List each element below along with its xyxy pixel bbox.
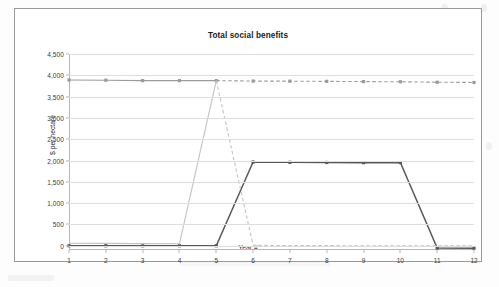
y-axis-tick-label: 1,500 [47, 178, 64, 185]
x-axis-tick-label: 3 [141, 257, 145, 264]
y-axis-tick-mark [66, 160, 69, 161]
y-axis-tick-mark [66, 117, 69, 118]
y-axis-tick-label: 4,500 [47, 51, 64, 58]
y-axis-tick-mark [66, 139, 69, 140]
gridline [69, 75, 474, 76]
gridline [69, 203, 474, 204]
x-axis-tick-label: 11 [434, 257, 441, 264]
y-axis-tick-label: 1,000 [47, 200, 64, 207]
scan-artifact [486, 142, 492, 150]
x-axis-tick-label: 8 [325, 257, 329, 264]
y-axis-tick-label: 500 [53, 221, 64, 228]
series-line-stepped-benefits [69, 162, 474, 248]
y-axis-tick-label: 3,500 [47, 93, 64, 100]
data-point-marker [288, 80, 291, 83]
x-axis-tick-label: 9 [362, 257, 366, 264]
scanned-page: Total social benefits $ per hectare Year… [0, 0, 499, 287]
x-axis-tick-mark [400, 250, 401, 253]
data-series-layer [69, 54, 474, 250]
data-point-marker [472, 81, 475, 84]
y-axis-tick-label: 0 [60, 242, 64, 249]
x-axis-tick-mark [474, 250, 475, 253]
series-line-declining-benefits [69, 81, 216, 244]
data-point-marker [399, 80, 402, 83]
x-axis-tick-mark [216, 250, 217, 253]
gridline [69, 161, 474, 162]
y-axis-tick-mark [66, 224, 69, 225]
x-axis-tick-label: 1 [67, 257, 71, 264]
y-axis-tick-mark [66, 96, 69, 97]
gridline [69, 246, 474, 247]
x-axis-tick-label: 12 [470, 257, 477, 264]
y-axis-tick-label: 4,000 [47, 72, 64, 79]
x-axis-tick-mark [437, 250, 438, 253]
x-axis-tick-mark [326, 250, 327, 253]
x-axis-tick-mark [69, 250, 70, 253]
x-axis-tick-mark [142, 250, 143, 253]
data-point-marker [67, 78, 70, 81]
data-point-marker [436, 81, 439, 84]
y-axis-tick-mark [66, 245, 69, 246]
y-axis-tick-label: 3,000 [47, 114, 64, 121]
gridline [69, 97, 474, 98]
gridline [69, 224, 474, 225]
data-point-marker [362, 80, 365, 83]
x-axis-tick-mark [179, 250, 180, 253]
chart-container: Total social benefits $ per hectare Year… [14, 8, 482, 262]
y-axis-tick-mark [66, 203, 69, 204]
x-axis-tick-mark [105, 250, 106, 253]
x-axis-tick-label: 4 [178, 257, 182, 264]
y-axis-tick-mark [66, 181, 69, 182]
x-axis-tick-mark [289, 250, 290, 253]
x-axis-tick-label: 10 [397, 257, 404, 264]
x-axis-tick-mark [253, 250, 254, 253]
gridline [69, 54, 474, 55]
data-point-marker [104, 79, 107, 82]
scan-artifact [8, 275, 54, 281]
x-axis-tick-label: 5 [214, 257, 218, 264]
data-point-marker [251, 79, 254, 82]
plot-area: 05001,0001,5002,0002,5003,0003,5004,0004… [69, 54, 474, 250]
gridline [69, 139, 474, 140]
x-axis-tick-label: 7 [288, 257, 292, 264]
x-axis-tick-label: 2 [104, 257, 108, 264]
y-axis-tick-label: 2,500 [47, 136, 64, 143]
chart-title: Total social benefits [15, 31, 481, 40]
gridline [69, 182, 474, 183]
y-axis-tick-label: 2,000 [47, 157, 64, 164]
series-line-upper-constant-benefits [216, 81, 474, 83]
y-axis-tick-mark [66, 75, 69, 76]
x-axis-tick-label: 6 [251, 257, 255, 264]
y-axis-tick-mark [66, 54, 69, 55]
x-axis-tick-mark [363, 250, 364, 253]
gridline [69, 118, 474, 119]
data-point-marker [141, 79, 144, 82]
data-point-marker [325, 80, 328, 83]
data-point-marker [178, 79, 181, 82]
data-point-marker [362, 161, 365, 164]
